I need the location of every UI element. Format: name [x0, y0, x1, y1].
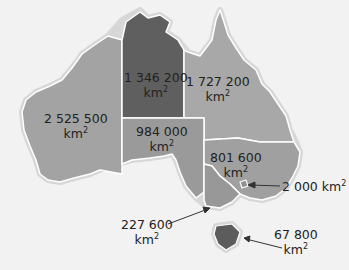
- label-nsw: 801 600 km2: [210, 150, 262, 180]
- label-vic: 227 600 km2: [121, 217, 173, 247]
- label-tas: 67 800 km2: [274, 227, 318, 257]
- region-act[interactable]: [240, 180, 248, 188]
- label-wa: 2 525 500 km2: [44, 111, 108, 141]
- region-nt[interactable]: [122, 12, 184, 118]
- label-nt: 1 346 200 km2: [124, 70, 188, 100]
- label-sa: 984 000 km2: [136, 124, 188, 154]
- arrow-vic: [168, 209, 208, 224]
- label-act: 2 000 km2: [282, 179, 346, 194]
- label-qld: 1 727 200 km2: [186, 74, 250, 104]
- region-wa[interactable]: [22, 36, 122, 182]
